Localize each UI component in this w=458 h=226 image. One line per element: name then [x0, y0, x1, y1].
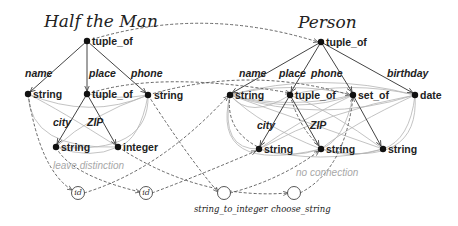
node-label: string: [326, 144, 355, 155]
node-left-root: [84, 38, 90, 44]
edge-label: city: [257, 120, 275, 131]
edge-label: name: [25, 68, 52, 79]
function-string-to-integer: [218, 187, 231, 200]
node-label: tuple_of: [326, 37, 367, 48]
node-left-name: [25, 91, 31, 97]
node-left-zip: [115, 144, 121, 150]
node-label: string: [264, 144, 293, 155]
node-left-place: [84, 91, 90, 97]
node-right-zip: [318, 146, 324, 152]
edge-label: ZIP: [310, 120, 326, 131]
node-label: integer: [123, 142, 158, 153]
function-inner-label: id: [74, 189, 82, 197]
node-label: tuple_of: [92, 36, 133, 47]
function-inner-label: id: [142, 189, 150, 197]
function-choose-string: [288, 187, 301, 200]
node-label: set_of: [358, 90, 389, 101]
edge-label: ZIP: [87, 117, 103, 128]
edge-label: city: [53, 117, 71, 128]
node-label: string: [33, 89, 62, 100]
node-right-phone: [350, 92, 356, 98]
function-label-string-to-integer: string_to_integer: [194, 205, 268, 214]
node-label: string: [154, 90, 183, 101]
schema-mapping-diagram: [0, 0, 458, 226]
function-label-choose-string: choose_string: [271, 205, 331, 214]
node-left-city: [53, 144, 59, 150]
edge-label: place: [89, 68, 116, 79]
annotation-no-connection: no connection: [296, 168, 358, 178]
node-right-phone-elem: [380, 146, 386, 152]
node-right-birthday: [412, 92, 418, 98]
edge-label: name: [239, 68, 266, 79]
edge-label: birthday: [387, 68, 428, 79]
edge-label: phone: [131, 68, 163, 79]
node-label: string: [388, 144, 417, 155]
node-label: date: [420, 90, 442, 101]
node-label: string: [235, 90, 264, 101]
function-nodes: [72, 187, 301, 200]
node-label: string: [61, 142, 90, 153]
edge-label: phone: [311, 68, 343, 79]
node-right-name: [227, 92, 233, 98]
node-left-phone: [145, 92, 151, 98]
node-right-place: [287, 92, 293, 98]
node-label: tuple_of: [92, 89, 133, 100]
right-schema-title: Person: [298, 12, 357, 32]
annotation-leave-distinction: leave distinction: [53, 161, 124, 171]
node-right-root: [318, 39, 324, 45]
node-right-city: [256, 146, 262, 152]
node-label: tuple_of: [295, 90, 336, 101]
left-schema-title: Half the Man: [44, 11, 158, 31]
edge-label: place: [279, 68, 306, 79]
